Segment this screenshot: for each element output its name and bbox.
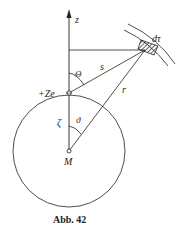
s-label: s	[100, 61, 104, 72]
r-label: r	[122, 84, 126, 95]
zeta-label: ζ	[57, 117, 62, 129]
charge-label: +Ze	[38, 88, 55, 99]
z-label: z	[74, 14, 79, 25]
z-arrow-icon	[67, 9, 72, 18]
m-label: M	[63, 156, 73, 167]
diagram: z dτ s r Θ +Ze ζ ϑ M Abb. 42	[0, 0, 183, 231]
dtau-label: dτ	[152, 33, 161, 44]
vartheta-label: ϑ	[76, 115, 81, 125]
figure-caption: Abb. 42	[53, 214, 86, 225]
vartheta-arc	[69, 126, 81, 134]
theta-label: Θ	[75, 69, 82, 79]
diagram-svg: z dτ s r Θ +Ze ζ ϑ M Abb. 42	[0, 0, 183, 231]
line-r	[69, 50, 145, 151]
center-marker	[67, 149, 71, 153]
